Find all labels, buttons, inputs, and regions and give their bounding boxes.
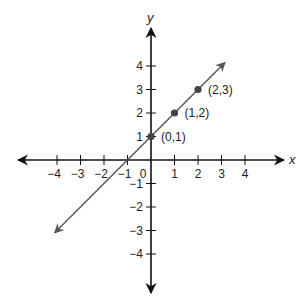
x-tick-label: −3 xyxy=(71,167,85,181)
point-label: (1,2) xyxy=(185,106,210,120)
x-tick-label: 1 xyxy=(171,167,178,181)
data-point xyxy=(147,133,154,140)
data-point xyxy=(194,86,201,93)
y-tick-label: −4 xyxy=(129,247,143,261)
y-tick-label: 2 xyxy=(136,106,143,120)
x-tick-label: 2 xyxy=(195,167,202,181)
y-tick-label: −3 xyxy=(129,224,143,238)
data-point xyxy=(171,109,178,116)
point-label: (0,1) xyxy=(161,130,186,144)
y-tick-label: 4 xyxy=(136,59,143,73)
y-tick-label: −1 xyxy=(129,177,143,191)
x-tick-label: −4 xyxy=(47,167,61,181)
x-tick-label: 4 xyxy=(242,167,249,181)
x-tick-label: −2 xyxy=(94,167,108,181)
data-points: (0,1)(1,2)(2,3) xyxy=(147,83,232,144)
y-tick-label: 3 xyxy=(136,83,143,97)
axes xyxy=(18,28,284,293)
y-tick-label: −2 xyxy=(129,200,143,214)
point-label: (2,3) xyxy=(208,83,233,97)
x-axis-label: x xyxy=(288,152,296,167)
y-axis-label: y xyxy=(146,10,155,25)
y-tick-label: 1 xyxy=(136,130,143,144)
x-tick-label: 3 xyxy=(218,167,225,181)
coordinate-plane: −4−3−2−101234−4−3−2−11234 (0,1)(1,2)(2,3… xyxy=(0,0,306,301)
